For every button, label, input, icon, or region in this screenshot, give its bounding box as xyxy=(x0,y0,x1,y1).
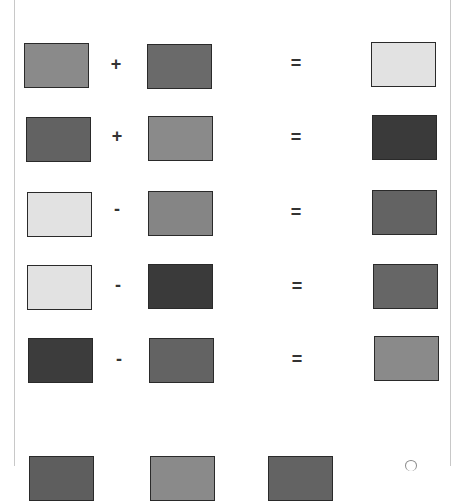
operand-a-swatch xyxy=(26,117,91,162)
result-swatch xyxy=(372,190,437,235)
plus-sign: + xyxy=(109,127,125,145)
operand-b-swatch xyxy=(148,191,213,236)
operand-b-swatch xyxy=(147,44,212,89)
equals-sign: = xyxy=(288,128,304,146)
operand-a-swatch xyxy=(27,192,92,237)
right-border-line xyxy=(450,0,451,466)
plus-sign: + xyxy=(108,55,124,73)
equals-sign: = xyxy=(288,203,304,221)
left-border-line xyxy=(14,0,15,466)
operand-a-swatch xyxy=(27,265,92,310)
operand-b-swatch xyxy=(148,264,213,309)
result-swatch xyxy=(374,336,439,381)
equals-sign: = xyxy=(289,277,305,295)
minus-sign: - xyxy=(110,276,126,294)
partial-swatch xyxy=(268,456,333,501)
partial-swatch xyxy=(29,456,94,501)
minus-sign: - xyxy=(109,200,125,218)
minus-sign: - xyxy=(111,350,127,368)
operand-b-swatch xyxy=(148,116,213,161)
equals-sign: = xyxy=(288,54,304,72)
result-swatch xyxy=(372,115,437,160)
operand-b-swatch xyxy=(149,338,214,383)
result-swatch xyxy=(373,264,438,309)
result-swatch xyxy=(371,42,436,87)
equals-sign: = xyxy=(289,350,305,368)
operand-a-swatch xyxy=(28,338,93,383)
partial-circle-icon xyxy=(405,460,417,471)
partial-swatch xyxy=(150,456,215,501)
operand-a-swatch xyxy=(24,43,89,88)
